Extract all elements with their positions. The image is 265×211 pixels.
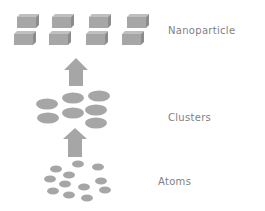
cluster-icon [62,93,84,104]
cluster-icon [62,108,84,119]
cluster-icon [36,99,58,110]
cube-icon [127,14,149,28]
cube-icon [52,14,74,28]
atoms-label: Atoms [158,176,191,187]
nanoparticle-label: Nanoparticle [168,25,235,36]
atom-icon [63,192,75,199]
atom-icon [99,187,111,194]
clusters-group [36,91,110,129]
nanoparticle-cubes [14,14,149,45]
atom-icon [63,172,75,179]
cluster-icon [85,118,107,129]
atom-icon [59,181,71,188]
cluster-icon [88,91,110,102]
cube-icon [14,31,36,45]
cube-icon [122,31,144,45]
atom-icon [50,166,62,173]
arrow-up-icon [63,128,87,157]
cluster-icon [85,105,107,116]
cube-icon [17,14,39,28]
arrow-up-icon [64,58,88,86]
atom-icon [95,178,107,185]
cube-icon [49,31,71,45]
atom-icon [78,184,90,191]
clusters-label: Clusters [168,112,211,123]
atom-icon [81,195,93,202]
atom-icon [44,176,56,183]
cube-icon [89,14,111,28]
atom-icon [92,164,104,171]
atoms-group [44,161,111,202]
cluster-icon [37,113,59,124]
cube-icon [86,31,108,45]
atom-icon [72,161,84,168]
atom-icon [47,188,59,195]
